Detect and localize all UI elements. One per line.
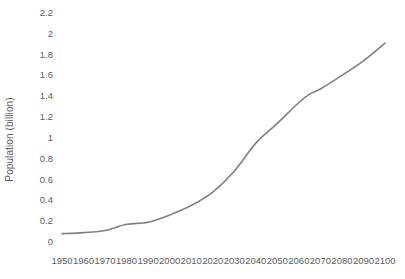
x-axis-tick: 2040 (245, 255, 266, 267)
x-axis-tick: 1960 (73, 255, 94, 267)
x-axis-tick: 2030 (224, 255, 245, 267)
x-axis-tick: 2020 (202, 255, 223, 267)
data-series-line (62, 43, 385, 233)
x-axis-tick: 2060 (288, 255, 309, 267)
x-axis-tick: 2010 (181, 255, 202, 267)
x-axis-tick: 2070 (310, 255, 331, 267)
x-axis-tick: 2100 (374, 255, 395, 267)
x-axis-tick-labels: 1950196019701980199020002010202020302040… (0, 255, 405, 271)
plot-area (0, 0, 405, 279)
x-axis-tick: 1970 (94, 255, 115, 267)
x-axis-tick: 1950 (51, 255, 72, 267)
x-axis-tick: 2080 (331, 255, 352, 267)
x-axis-tick: 2090 (353, 255, 374, 267)
x-axis-tick: 1980 (116, 255, 137, 267)
x-axis-tick: 2000 (159, 255, 180, 267)
x-axis-tick: 1990 (138, 255, 159, 267)
x-axis-tick: 2050 (267, 255, 288, 267)
line-chart: Population (billion) 00.20.40.60.811.21.… (0, 0, 405, 279)
